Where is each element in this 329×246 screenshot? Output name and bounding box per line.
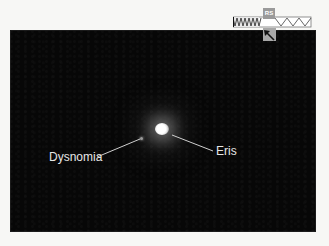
dysnomia-label: Dysnomia xyxy=(49,150,102,164)
eris-leader-line xyxy=(172,135,213,151)
compass-label-box: RS xyxy=(263,8,275,19)
astronomical-image: Dysnomia Eris xyxy=(10,30,316,232)
leader-lines xyxy=(10,30,316,232)
dysnomia-leader-line xyxy=(97,139,140,157)
direction-arrow-icon xyxy=(263,28,276,41)
compass-scale-indicator: RS xyxy=(233,7,313,41)
eris-label: Eris xyxy=(216,144,237,158)
